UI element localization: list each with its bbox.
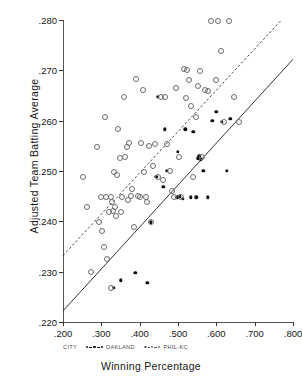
data-point-phil-kc bbox=[205, 88, 211, 94]
data-point-phil-kc bbox=[115, 126, 121, 132]
data-point-phil-kc bbox=[121, 94, 127, 100]
data-point-phil-kc bbox=[193, 114, 199, 120]
x-tick-label: .700 bbox=[245, 328, 264, 339]
data-point-phil-kc bbox=[160, 177, 166, 183]
data-point-phil-kc bbox=[112, 204, 118, 210]
legend-item-oakland[interactable]: OAKLAND bbox=[86, 344, 135, 350]
legend-dashed-line-marker-icon bbox=[144, 346, 161, 349]
data-point-phil-kc bbox=[150, 163, 156, 169]
y-tick-label: .280 bbox=[39, 15, 58, 26]
data-point-phil-kc bbox=[126, 140, 132, 146]
data-point-phil-kc bbox=[195, 83, 201, 89]
data-point-phil-kc bbox=[188, 103, 194, 109]
data-point-phil-kc bbox=[173, 85, 179, 91]
data-point-phil-kc bbox=[178, 194, 184, 200]
x-tick-mark bbox=[293, 322, 294, 326]
y-tick-label: .230 bbox=[39, 266, 58, 277]
scatter-plot-figure: Adjusted Team Batting Average .220.230.2… bbox=[0, 0, 302, 381]
plot-area bbox=[63, 20, 293, 322]
data-point-phil-kc bbox=[171, 194, 177, 200]
data-point-phil-kc bbox=[99, 228, 105, 234]
legend: CITY OAKLAND PHIL-KC bbox=[63, 341, 294, 353]
data-point-phil-kc bbox=[104, 256, 110, 262]
x-tick-label: .300 bbox=[92, 328, 111, 339]
data-point-phil-kc bbox=[176, 154, 182, 160]
data-point-phil-kc bbox=[215, 18, 221, 24]
y-tick-label: .250 bbox=[39, 166, 58, 177]
data-point-phil-kc bbox=[80, 174, 86, 180]
legend-label-phil-kc: PHIL-KC bbox=[163, 344, 188, 350]
x-tick-mark bbox=[178, 322, 179, 326]
data-point-phil-kc bbox=[213, 77, 219, 83]
data-point-phil-kc bbox=[137, 194, 143, 200]
data-point-phil-kc bbox=[208, 18, 214, 24]
y-tick-label: .260 bbox=[39, 115, 58, 126]
x-axis-title: Winning Percentage bbox=[0, 360, 302, 372]
data-point-phil-kc bbox=[101, 244, 107, 250]
data-point-phil-kc bbox=[236, 119, 242, 125]
data-point-phil-kc bbox=[183, 95, 189, 101]
data-point-phil-kc bbox=[144, 199, 150, 205]
data-point-phil-kc bbox=[231, 94, 237, 100]
legend-title-entry: CITY bbox=[63, 344, 77, 350]
data-point-phil-kc bbox=[96, 219, 102, 225]
data-point-phil-kc bbox=[164, 141, 170, 147]
x-tick-mark bbox=[63, 322, 64, 326]
data-point-phil-kc bbox=[140, 87, 146, 93]
data-point-phil-kc bbox=[133, 76, 139, 82]
data-point-phil-kc bbox=[84, 204, 90, 210]
x-axis-ticks: .200.300.400.500.600.700.800 bbox=[63, 322, 294, 342]
y-tick-label: .220 bbox=[39, 317, 58, 328]
x-tick-label: .600 bbox=[207, 328, 226, 339]
y-tick-label: .270 bbox=[39, 65, 58, 76]
data-point-phil-kc bbox=[102, 114, 108, 120]
data-point-phil-kc bbox=[190, 174, 196, 180]
data-point-phil-kc bbox=[148, 219, 154, 225]
data-point-phil-kc bbox=[131, 224, 137, 230]
legend-solid-line-marker-icon bbox=[86, 346, 103, 348]
data-point-phil-kc bbox=[118, 209, 124, 215]
data-point-phil-kc bbox=[141, 169, 147, 175]
x-tick-label: .400 bbox=[130, 328, 149, 339]
data-point-phil-kc bbox=[146, 143, 152, 149]
data-point-phil-kc bbox=[186, 77, 192, 83]
data-point-phil-kc bbox=[108, 285, 114, 291]
legend-title-label: CITY bbox=[63, 344, 77, 350]
data-point-phil-kc bbox=[197, 68, 203, 74]
data-point-phil-kc bbox=[122, 154, 128, 160]
x-tick-mark bbox=[216, 322, 217, 326]
x-tick-label: .800 bbox=[284, 328, 302, 339]
legend-item-phil-kc[interactable]: PHIL-KC bbox=[144, 344, 188, 350]
data-point-phil-kc bbox=[114, 172, 120, 178]
x-tick-mark bbox=[101, 322, 102, 326]
y-axis-ticks: .220.230.240.250.260.270.280 bbox=[0, 20, 63, 323]
data-point-phil-kc bbox=[138, 140, 144, 146]
regression-lines bbox=[63, 20, 293, 322]
data-point-phil-kc bbox=[152, 141, 158, 147]
x-tick-label: .500 bbox=[169, 328, 188, 339]
data-point-phil-kc bbox=[199, 154, 205, 160]
data-point-phil-kc bbox=[162, 94, 168, 100]
data-point-phil-kc bbox=[94, 144, 100, 150]
data-point-phil-kc bbox=[129, 186, 135, 192]
legend-label-oakland: OAKLAND bbox=[106, 344, 135, 350]
x-tick-mark bbox=[140, 322, 141, 326]
data-point-phil-kc bbox=[184, 67, 190, 73]
data-point-phil-kc bbox=[218, 48, 224, 54]
data-point-phil-kc bbox=[88, 269, 94, 275]
fit-line-oakland bbox=[63, 59, 293, 311]
data-point-phil-kc bbox=[221, 119, 227, 125]
x-tick-label: .200 bbox=[54, 328, 73, 339]
x-tick-mark bbox=[255, 322, 256, 326]
y-tick-label: .240 bbox=[39, 216, 58, 227]
data-point-phil-kc bbox=[226, 18, 232, 24]
data-point-phil-kc bbox=[167, 168, 173, 174]
data-point-phil-kc bbox=[128, 193, 134, 199]
